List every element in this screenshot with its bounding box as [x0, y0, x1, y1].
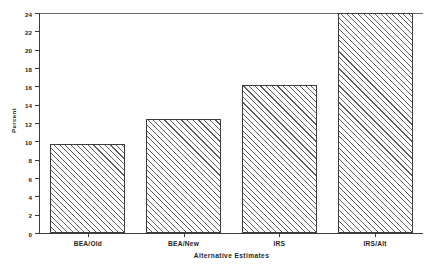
x-tick [88, 233, 89, 237]
x-tick [375, 233, 376, 237]
y-tick-label: 10 [25, 138, 32, 145]
y-tick: 10 [35, 141, 40, 142]
y-tick: 4 [35, 196, 40, 197]
y-tick-label: 16 [25, 83, 32, 90]
y-tick-label: 22 [25, 28, 32, 35]
x-tick-label: IRS [274, 240, 286, 247]
x-tick [184, 233, 185, 237]
y-tick-label: 18 [25, 65, 32, 72]
x-tick-label: IRS/Alt [363, 240, 386, 247]
y-tick-label: 8 [29, 157, 32, 164]
y-tick: 6 [35, 178, 40, 179]
y-axis-title-text: Percent [11, 107, 18, 132]
x-tick-label: BEA/Old [74, 240, 103, 247]
y-tick-label: 4 [29, 193, 32, 200]
y-tick: 0 [35, 233, 40, 234]
y-tick-label: 20 [25, 47, 32, 54]
plot-area: 024681012141618202224 BEA/OldBEA/NewIRSI… [40, 13, 423, 233]
x-tick-label: BEA/New [168, 240, 199, 247]
y-tick: 2 [35, 215, 40, 216]
bar-bea-new [146, 119, 221, 233]
y-tick-label: 14 [25, 102, 32, 109]
bar-irs [242, 85, 317, 233]
y-tick: 14 [35, 105, 40, 106]
y-tick: 8 [35, 160, 40, 161]
bar-irs-alt [338, 13, 413, 233]
bar-chart: Percent 024681012141618202224 BEA/OldBEA… [0, 0, 440, 279]
y-tick: 16 [35, 86, 40, 87]
y-tick: 12 [35, 123, 40, 124]
y-tick-label: 12 [25, 120, 32, 127]
y-tick: 18 [35, 68, 40, 69]
y-tick-label: 6 [29, 175, 32, 182]
y-tick: 20 [35, 50, 40, 51]
x-tick [279, 233, 280, 237]
x-axis-spine [39, 233, 423, 234]
y-tick-label: 24 [25, 10, 32, 17]
y-tick: 22 [35, 31, 40, 32]
y-tick: 24 [35, 13, 40, 14]
y-axis-title: Percent [4, 0, 24, 240]
y-tick-label: 2 [29, 212, 32, 219]
y-tick-label: 0 [29, 230, 32, 237]
x-axis-title: Alternative Estimates [40, 252, 423, 259]
bar-bea-old [50, 144, 125, 233]
